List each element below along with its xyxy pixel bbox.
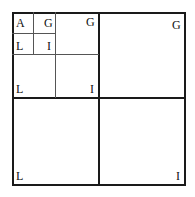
label-i-big: I [176, 170, 180, 182]
outer-left-border [12, 12, 14, 186]
label-l-big: L [16, 170, 23, 182]
label-g-big: G [172, 19, 181, 31]
label-i-mid: I [90, 83, 94, 95]
label-g-small: G [44, 17, 53, 29]
center-horizontal-divider [12, 97, 186, 99]
label-l-small: L [16, 40, 23, 52]
outer-right-border [184, 12, 186, 186]
label-l-mid: L [16, 83, 23, 95]
q3-horizontal-divider [12, 33, 56, 34]
q2-vertical-divider [55, 12, 56, 98]
center-vertical-divider [98, 12, 100, 186]
label-a: A [16, 17, 25, 29]
label-i-small: I [47, 40, 51, 52]
q2-horizontal-divider [12, 54, 99, 55]
label-g-mid: G [86, 16, 95, 28]
